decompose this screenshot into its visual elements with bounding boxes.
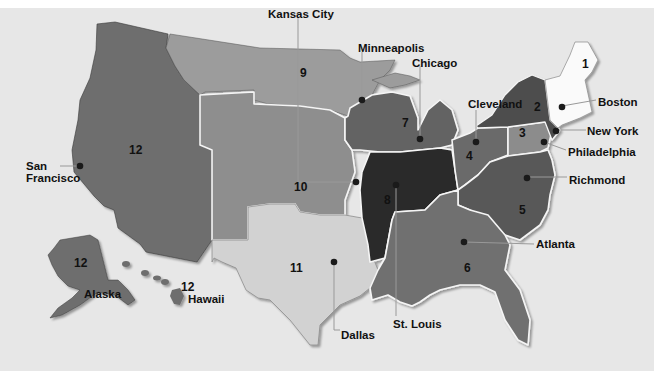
district-12-hawaii-label: 12 — [181, 280, 194, 294]
city-label-new-york: New York — [587, 125, 638, 137]
district-4-label: 4 — [466, 149, 473, 163]
map-svg — [0, 0, 654, 371]
city-label-atlanta: Atlanta — [536, 238, 575, 250]
district-3-label: 3 — [519, 126, 526, 140]
city-label-cleveland: Cleveland — [468, 98, 522, 110]
district-7-label: 7 — [402, 116, 409, 130]
city-label-minneapolis: Minneapolis — [358, 42, 424, 54]
district-10-label: 10 — [294, 180, 307, 194]
city-label-boston: Boston — [598, 96, 638, 108]
district-1-region — [545, 42, 598, 128]
city-label-philadelphia: Philadelphia — [568, 146, 636, 158]
district-11-label: 11 — [290, 261, 303, 275]
district-5-label: 5 — [519, 203, 526, 217]
federal-reserve-map: 1 2 3 4 5 6 7 8 9 10 11 12 12 12 Boston … — [0, 0, 654, 371]
district-2-label: 2 — [534, 100, 541, 114]
district-9-label: 9 — [300, 66, 307, 80]
city-label-st-louis: St. Louis — [393, 318, 442, 330]
alaska-region — [48, 235, 135, 318]
city-label-dallas: Dallas — [341, 329, 375, 341]
city-label-chicago: Chicago — [412, 57, 457, 69]
district-8-label: 8 — [384, 193, 391, 207]
district-6-label: 6 — [464, 261, 471, 275]
city-label-kansas-city: Kansas City — [268, 8, 334, 20]
region-label-hawaii: Hawaii — [188, 293, 224, 305]
district-1-label: 1 — [582, 57, 589, 71]
city-label-richmond: Richmond — [569, 174, 625, 186]
district-12-alaska-label: 12 — [74, 256, 87, 270]
region-label-alaska: Alaska — [84, 288, 121, 300]
city-label-san-francisco: San Francisco — [26, 160, 72, 184]
district-12-label: 12 — [129, 143, 142, 157]
